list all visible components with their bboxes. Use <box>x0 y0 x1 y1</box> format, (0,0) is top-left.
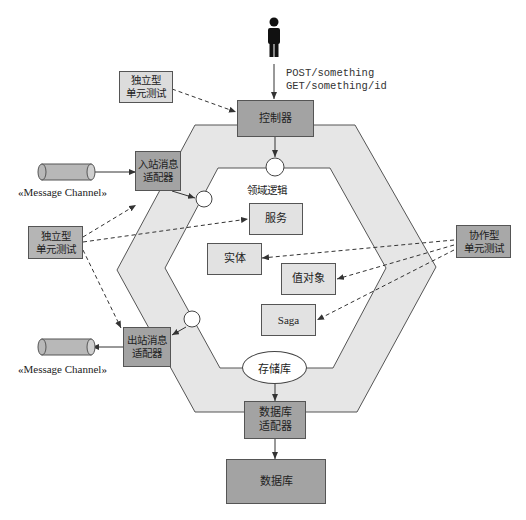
outbound-message-adapter-box: 出站消息 适配器 <box>123 327 171 367</box>
solitary-test-top-label: 独立型 单元测试 <box>126 74 166 100</box>
domain-logic-label: 领域逻辑 <box>247 182 287 197</box>
service-label: 服务 <box>265 212 287 226</box>
request-line-2: GET/something/id <box>286 80 387 92</box>
entity-label: 实体 <box>224 252 246 266</box>
value-object-box: 值对象 <box>281 263 336 295</box>
domain-port-top <box>266 158 284 176</box>
entity-box: 实体 <box>207 243 262 275</box>
database-box: 数据库 <box>226 459 326 504</box>
message-channel-out-label: «Message Channel» <box>18 363 107 375</box>
controller-label: 控制器 <box>259 112 292 126</box>
database-adapter-box: 数据库 适配器 <box>244 401 306 439</box>
saga-box: Saga <box>261 304 316 336</box>
value-object-label: 值对象 <box>292 272 325 286</box>
inbound-message-adapter-box: 入站消息 适配器 <box>135 151 181 191</box>
request-line-1: POST/something <box>286 67 374 79</box>
service-box: 服务 <box>249 203 303 235</box>
repository-label: 存储库 <box>258 360 291 376</box>
hexagonal-architecture-diagram: POST/something GET/something/id 控制器 领域逻辑… <box>0 0 526 520</box>
solitary-test-left-label: 独立型 单元测试 <box>36 230 76 256</box>
saga-label: Saga <box>278 313 299 327</box>
solitary-unit-test-left-box: 独立型 单元测试 <box>28 226 83 259</box>
controller-box: 控制器 <box>237 100 314 137</box>
inbound-adapter-label: 入站消息 适配器 <box>138 158 178 184</box>
message-channel-in-label: «Message Channel» <box>18 186 107 198</box>
message-channel-out-cylinder <box>38 339 95 355</box>
diagram-lines <box>0 0 526 520</box>
inbound-port <box>196 191 212 207</box>
database-label: 数据库 <box>260 475 293 489</box>
sociable-test-right-label: 协作型 单元测试 <box>464 229 504 255</box>
database-adapter-label: 数据库 适配器 <box>259 406 292 434</box>
outbound-adapter-label: 出站消息 适配器 <box>127 334 167 360</box>
solitary-unit-test-top-box: 独立型 单元测试 <box>119 71 173 103</box>
request-text: POST/something GET/something/id <box>286 67 387 93</box>
message-channel-in-cylinder <box>38 164 95 180</box>
repository-ellipse: 存储库 <box>242 351 307 384</box>
person-icon <box>268 18 280 58</box>
outbound-port <box>184 311 200 327</box>
sociable-unit-test-right-box: 协作型 单元测试 <box>456 225 511 258</box>
